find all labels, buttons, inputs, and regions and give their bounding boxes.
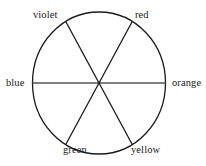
wheel-label-violet: violet <box>33 10 58 21</box>
wheel-label-yellow: yellow <box>131 145 160 156</box>
color-wheel-figure: violet red orange yellow green blue <box>0 0 206 166</box>
wheel-label-red: red <box>135 10 149 21</box>
wheel-label-blue: blue <box>6 78 24 89</box>
wheel-label-orange: orange <box>172 78 201 89</box>
wheel-label-green: green <box>63 145 87 156</box>
